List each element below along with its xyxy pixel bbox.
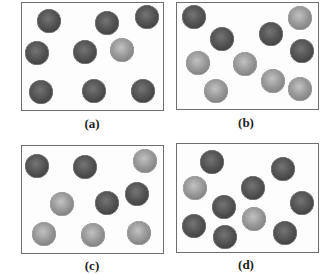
dark-particle (242, 177, 265, 200)
light-particle (289, 78, 312, 101)
dark-particle (272, 158, 295, 181)
panel-label-d: (d) (238, 257, 254, 273)
light-particle (289, 7, 312, 30)
light-particle (134, 150, 157, 173)
dark-particle (201, 151, 224, 174)
light-particle (33, 223, 56, 246)
dark-particle (83, 80, 106, 103)
dark-particle (260, 23, 283, 46)
light-particle (262, 70, 285, 93)
light-particle (187, 52, 210, 75)
light-particle (234, 53, 257, 76)
light-particle (82, 224, 105, 247)
light-particle (111, 39, 134, 62)
dark-particle (74, 41, 97, 64)
dark-particle (126, 183, 149, 206)
light-particle (243, 208, 266, 231)
dark-particle (132, 80, 155, 103)
light-particle (205, 80, 228, 103)
panel-label-a: (a) (84, 116, 99, 132)
dark-particle (183, 215, 206, 238)
dark-particle (136, 6, 159, 29)
dark-particle (38, 10, 61, 33)
dark-particle (26, 155, 49, 178)
dark-particle (214, 226, 237, 249)
light-particle (184, 177, 207, 200)
dark-particle (211, 28, 234, 51)
light-particle (128, 222, 151, 245)
dark-particle (96, 12, 119, 35)
dark-particle (30, 81, 53, 104)
dark-particle (291, 192, 314, 215)
dark-particle (183, 6, 206, 29)
dark-particle (291, 40, 314, 63)
panel-label-b: (b) (238, 115, 254, 131)
dark-particle (213, 196, 236, 219)
dark-particle (26, 42, 49, 65)
panel-label-c: (c) (85, 258, 99, 274)
dark-particle (74, 156, 97, 179)
dark-particle (274, 222, 297, 245)
dark-particle (96, 192, 119, 215)
light-particle (51, 193, 74, 216)
